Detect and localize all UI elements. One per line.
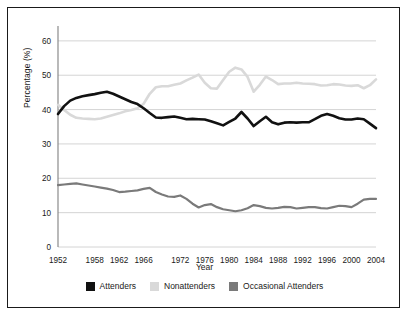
y-tick-label-0: 0 [46,243,51,252]
legend-label: Occasional Attenders [243,281,323,291]
y-tick-label-20: 20 [42,174,52,183]
legend-label: Attenders [100,281,136,291]
y-axis-title: Percentage (%) [22,48,32,108]
x-axis-title: Year [0,262,409,272]
legend-swatch-icon [229,282,238,291]
legend-swatch-icon [86,282,95,291]
y-tick-label-30: 30 [42,140,52,149]
chart-legend: AttendersNonattendersOccasional Attender… [0,281,409,291]
y-tick-label-60: 60 [42,37,52,46]
legend-item-occasional-attenders: Occasional Attenders [229,281,323,291]
series-line-occasional-attenders [58,183,376,211]
legend-item-nonattenders: Nonattenders [150,281,215,291]
y-tick-label-40: 40 [42,106,52,115]
legend-label: Nonattenders [164,281,215,291]
y-tick-label-10: 10 [42,209,52,218]
chart-figure: 0102030405060195219581962196619721976198… [0,0,409,317]
y-tick-label-50: 50 [42,71,52,80]
legend-item-attenders: Attenders [86,281,136,291]
legend-swatch-icon [150,282,159,291]
